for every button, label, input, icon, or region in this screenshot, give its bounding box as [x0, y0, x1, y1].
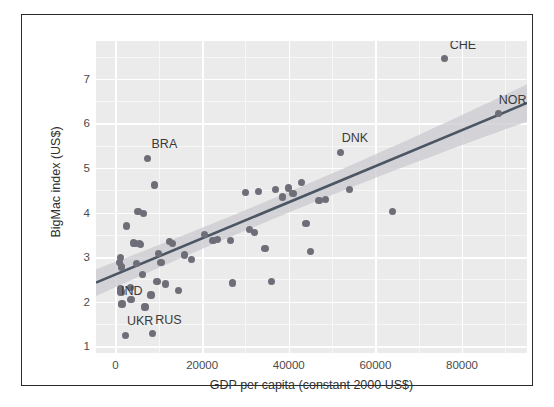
data-point — [268, 278, 275, 285]
data-point — [139, 271, 146, 278]
x-tick-label: 60000 — [335, 359, 415, 371]
point-label-ind: IND — [121, 284, 143, 298]
point-label-bra: BRA — [152, 137, 178, 151]
data-point-bra — [144, 155, 151, 162]
data-point — [298, 179, 305, 186]
data-point — [251, 229, 258, 236]
point-label-nor: NOR — [499, 93, 527, 107]
point-label-ukr: UKR — [127, 314, 153, 328]
data-point-ind — [118, 300, 125, 307]
scatter-plot-figure: BRAINDUKRRUSDNKCHENOR 1234567 0200004000… — [0, 0, 554, 407]
point-label-dnk: DNK — [342, 131, 368, 145]
x-tick-label: 80000 — [422, 359, 502, 371]
point-label-rus: RUS — [155, 313, 181, 327]
data-point — [118, 263, 125, 270]
data-point — [279, 193, 286, 200]
data-points-layer — [96, 41, 527, 353]
data-point — [272, 186, 279, 193]
data-point — [140, 210, 147, 217]
x-axis-tick-labels: 020000400006000080000 — [96, 359, 527, 375]
data-point — [389, 208, 396, 215]
data-point-dnk — [337, 149, 344, 156]
data-point — [322, 196, 329, 203]
data-point — [157, 259, 164, 266]
data-point — [141, 303, 148, 310]
data-point — [346, 186, 353, 193]
y-tick-label: 1 — [30, 340, 90, 352]
data-point — [307, 248, 314, 255]
plot-panel: BRAINDUKRRUSDNKCHENOR — [96, 41, 527, 353]
data-point-rus — [149, 330, 156, 337]
data-point — [227, 237, 234, 244]
data-point — [302, 220, 309, 227]
data-point-che — [441, 55, 448, 62]
data-point — [188, 256, 195, 263]
y-axis-title: BigMac index (US$) — [49, 62, 63, 302]
x-tick-label: 20000 — [162, 359, 242, 371]
data-point — [201, 231, 208, 238]
data-point — [255, 188, 262, 195]
data-point — [153, 278, 160, 285]
data-point — [289, 190, 296, 197]
data-point — [169, 240, 176, 247]
data-point — [162, 280, 169, 287]
data-point — [155, 250, 162, 257]
data-point — [123, 222, 130, 229]
figure-border: BRAINDUKRRUSDNKCHENOR 1234567 0200004000… — [21, 14, 533, 386]
data-point — [133, 260, 140, 267]
data-point — [137, 241, 144, 248]
data-point-ukr — [122, 332, 129, 339]
data-point — [151, 181, 158, 188]
data-point — [147, 291, 154, 298]
data-point-nor — [495, 110, 502, 117]
x-axis-title: GDP per capita (constant 2000 US$) — [96, 378, 527, 392]
data-point — [242, 189, 249, 196]
data-point — [214, 236, 221, 243]
x-tick-label: 0 — [75, 359, 155, 371]
data-point — [229, 279, 236, 286]
x-tick-label: 40000 — [249, 359, 329, 371]
data-point — [261, 245, 268, 252]
data-point — [175, 287, 182, 294]
point-label-che: CHE — [450, 41, 476, 52]
